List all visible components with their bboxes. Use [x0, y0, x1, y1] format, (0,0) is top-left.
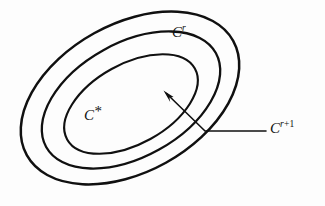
contour-label-cstar-superscript: *	[95, 103, 103, 119]
inner-contour	[48, 34, 214, 175]
contour-label-crplus1-base: C	[270, 120, 280, 136]
contour-label-cr: Cr	[172, 24, 186, 40]
arrow-head-icon	[164, 91, 174, 102]
contour-diagram-svg	[0, 0, 325, 206]
contour-label-crplus1-superscript: r+1	[280, 119, 294, 129]
contour-label-crplus1: Cr+1	[270, 120, 294, 136]
contour-label-crplus1-sup-upright: +1	[284, 119, 295, 129]
contour-label-cr-base: C	[172, 24, 182, 40]
middle-contour	[19, 3, 244, 197]
leader-line	[167, 94, 267, 132]
figure-canvas: Cr C* Cr+1	[0, 0, 325, 206]
contour-label-cstar: C*	[84, 102, 102, 123]
contour-label-cstar-base: C	[84, 107, 94, 123]
contour-label-cr-superscript: r	[182, 23, 186, 33]
outer-contour	[0, 0, 269, 206]
